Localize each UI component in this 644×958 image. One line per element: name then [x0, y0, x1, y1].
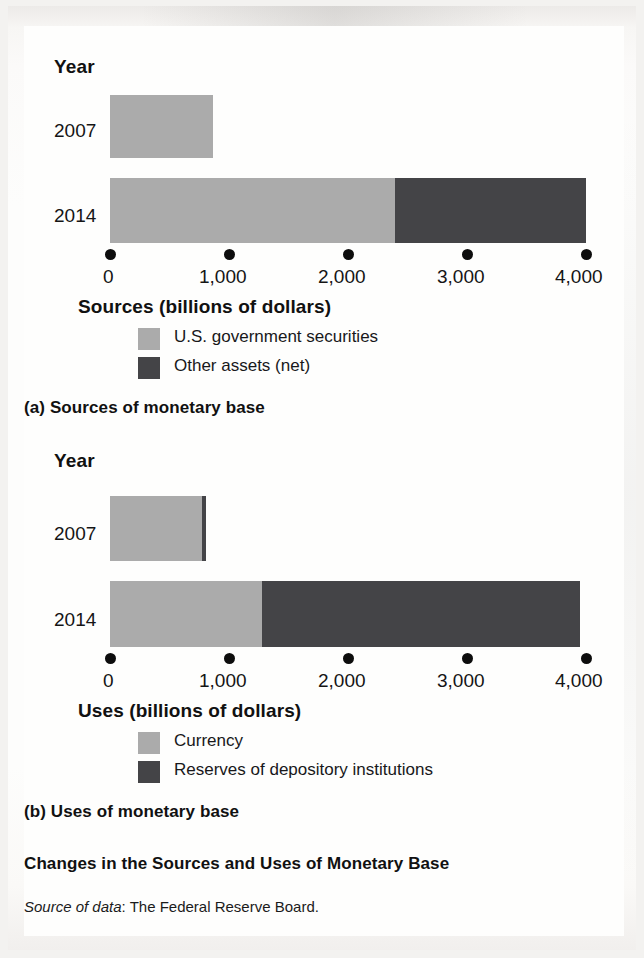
panel-b-tick-label-4000: 4,000	[555, 670, 603, 692]
panel-b-tick-dot-2000	[343, 653, 354, 664]
panel-b-legend-swatch-currency	[138, 732, 160, 754]
panel-a-tick-dot-1000	[224, 249, 235, 260]
panel-b-bar-2007-segment-currency[interactable]	[110, 496, 202, 561]
panel-a-tick-label-1000: 1,000	[199, 266, 247, 288]
panel-a-tick-dot-2000	[343, 249, 354, 260]
panel-a-bar-2014[interactable]	[110, 178, 586, 243]
panel-a-axis-title: Sources (billions of dollars)	[78, 296, 331, 318]
figure-source-prefix: Source of data	[24, 898, 122, 915]
figure-source: Source of data: The Federal Reserve Boar…	[24, 898, 319, 915]
panel-b-legend-label-reserves: Reserves of depository institutions	[174, 760, 433, 780]
panel-b-legend-swatch-reserves	[138, 761, 160, 783]
panel-b-tick-label-1000: 1,000	[199, 670, 247, 692]
panel-b-axis-title: Uses (billions of dollars)	[78, 700, 301, 722]
panel-b-tick-label-0: 0	[103, 670, 114, 692]
panel-a-legend-label-other-assets: Other assets (net)	[174, 356, 310, 376]
panel-a-caption: (a) Sources of monetary base	[24, 398, 265, 418]
panel-b-year-header: Year	[54, 450, 95, 472]
panel-a-year-header: Year	[54, 56, 95, 78]
panel-a-bar-2007[interactable]	[110, 95, 213, 158]
panel-a-bar-2014-segment-other-assets[interactable]	[395, 178, 586, 243]
panel-a-tick-dot-3000	[462, 249, 473, 260]
figure-source-text: : The Federal Reserve Board.	[122, 898, 319, 915]
panel-b-tick-dot-4000	[581, 653, 592, 664]
panel-a-bar-2014-segment-securities[interactable]	[110, 178, 395, 243]
panel-a-year-label-2007: 2007	[54, 120, 96, 142]
panel-b-bar-2007[interactable]	[110, 496, 206, 561]
panel-b-caption: (b) Uses of monetary base	[24, 802, 239, 822]
panel-a-tick-label-0: 0	[103, 266, 114, 288]
figure-title: Changes in the Sources and Uses of Monet…	[24, 854, 449, 874]
panel-a-tick-dot-4000	[581, 249, 592, 260]
panel-a-tick-label-4000: 4,000	[555, 266, 603, 288]
panel-a-bar-2007-segment-securities[interactable]	[110, 95, 213, 158]
figure-sheet: Year 2007 2014 0 1,000 2,000	[24, 26, 624, 936]
panel-b-tick-label-3000: 3,000	[437, 670, 485, 692]
panel-b-tick-label-2000: 2,000	[318, 670, 366, 692]
panel-b-year-label-2014: 2014	[54, 609, 96, 631]
panel-a-tick-dot-0	[105, 249, 116, 260]
scanned-page: Year 2007 2014 0 1,000 2,000	[0, 0, 644, 958]
panel-b-legend-label-currency: Currency	[174, 731, 243, 751]
panel-b-bar-2014[interactable]	[110, 581, 580, 647]
panel-b-tick-dot-0	[105, 653, 116, 664]
panel-a-legend-label-securities: U.S. government securities	[174, 327, 378, 347]
panel-b-tick-dot-1000	[224, 653, 235, 664]
panel-a-tick-label-3000: 3,000	[437, 266, 485, 288]
panel-b-bar-2007-segment-reserves[interactable]	[202, 496, 206, 561]
panel-b-tick-dot-3000	[462, 653, 473, 664]
panel-a-legend-swatch-securities	[138, 328, 160, 350]
panel-a-tick-label-2000: 2,000	[318, 266, 366, 288]
panel-a-legend-swatch-other-assets	[138, 357, 160, 379]
panel-b-bar-2014-segment-currency[interactable]	[110, 581, 262, 647]
panel-a-year-label-2014: 2014	[54, 205, 96, 227]
panel-b-year-label-2007: 2007	[54, 523, 96, 545]
panel-b-bar-2014-segment-reserves[interactable]	[262, 581, 580, 647]
